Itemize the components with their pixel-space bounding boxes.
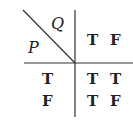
cell-2-1: T: [87, 92, 98, 110]
row-variable-label: P: [28, 38, 39, 57]
cell-1-2: T: [110, 70, 121, 88]
column-variable-label: Q: [51, 14, 64, 33]
cell-1-1: T: [87, 70, 98, 88]
column-header-2: F: [110, 31, 121, 49]
cell-2-2: F: [110, 92, 121, 110]
row-header-2: F: [42, 92, 53, 110]
truth-table: Q P T F T F T T T F: [0, 0, 133, 121]
column-header-1: T: [87, 31, 98, 49]
row-header-1: T: [42, 70, 53, 88]
